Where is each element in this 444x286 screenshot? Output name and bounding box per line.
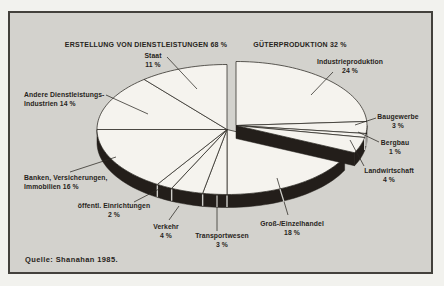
scanned-pie-chart-figure: ERSTELLUNG VON DIENSTLEISTUNGEN 68 % GÜT… [0, 0, 444, 286]
slice-label-line: 1 % [381, 147, 409, 156]
slice-label-landwirtschaft: Landwirtschaft 4 % [364, 166, 414, 184]
slice-label-line: 3 % [195, 240, 249, 249]
slice-label-industrieproduktion: Industrieproduktion 24 % [317, 57, 383, 75]
slice-label-line: 3 % [377, 121, 418, 130]
slice-label-line: Bergbau [381, 138, 409, 147]
slice-label-line: Staat [144, 51, 161, 60]
slice-label-line: 24 % [317, 66, 383, 75]
slice-label-line: Transportwesen [195, 231, 249, 240]
slice-label-gross-einzelhandel: Groß-/Einzelhandel 18 % [260, 219, 324, 237]
slice-label-transportwesen: Transportwesen 3 % [195, 231, 249, 249]
slice-label-staat: Staat 11 % [144, 51, 161, 69]
slice-label-line: Andere Dienstleistungs- [24, 90, 104, 99]
slice-label-line: Industrien 14 % [24, 99, 104, 108]
group-title-goods: GÜTERPRODUKTION 32 % [253, 40, 346, 49]
slice-label-oeffentl-einrichtungen: öffentl. Einrichtungen 2 % [78, 201, 150, 219]
slice-label-line: Baugewerbe [377, 112, 418, 121]
slice-label-andere-dienstleistungen: Andere Dienstleistungs- Industrien 14 % [24, 90, 104, 108]
slice-label-line: Landwirtschaft [364, 166, 414, 175]
slice-label-banken: Banken, Versicherungen, Immobilien 16 % [24, 173, 108, 191]
source-note: Quelle: Shanahan 1985. [25, 255, 118, 264]
slice-label-line: Verkehr [153, 222, 179, 231]
slice-label-line: Industrieproduktion [317, 57, 383, 66]
slice-label-line: 4 % [153, 231, 179, 240]
slice-label-line: 2 % [78, 210, 150, 219]
slice-label-line: 18 % [260, 228, 324, 237]
slice-label-line: Immobilien 16 % [24, 182, 108, 191]
slice-label-baugewerbe: Baugewerbe 3 % [377, 112, 418, 130]
slice-label-bergbau: Bergbau 1 % [381, 138, 409, 156]
group-title-goods-text: GÜTERPRODUKTION 32 % [253, 40, 346, 49]
slice-label-line: öffentl. Einrichtungen [78, 201, 150, 210]
group-title-services-text: ERSTELLUNG VON DIENSTLEISTUNGEN 68 % [65, 40, 227, 49]
slice-label-line: 4 % [364, 175, 414, 184]
slice-label-verkehr: Verkehr 4 % [153, 222, 179, 240]
group-title-services: ERSTELLUNG VON DIENSTLEISTUNGEN 68 % [65, 40, 227, 49]
slice-label-line: 11 % [144, 60, 161, 69]
slice-label-line: Groß-/Einzelhandel [260, 219, 324, 228]
source-note-text: Quelle: Shanahan 1985. [25, 255, 118, 264]
slice-label-line: Banken, Versicherungen, [24, 173, 108, 182]
